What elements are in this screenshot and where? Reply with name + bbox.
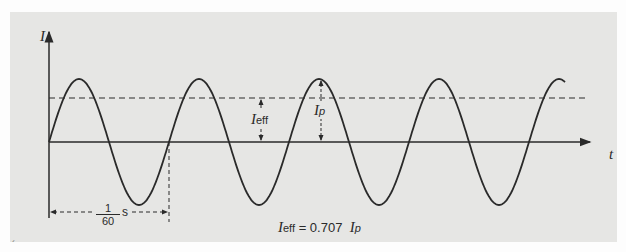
rms-equation: Ieff = 0.707 Ip [278,219,361,236]
peak-label: Ip [314,101,325,119]
period-fraction: 1 60 [96,202,120,227]
x-axis-label: t [609,146,613,163]
y-axis-label: I [40,28,45,45]
sine-wave-diagram [0,0,626,252]
rms-label: Ieff [251,110,268,128]
period-unit: s [122,205,130,219]
corner-mark: ´ [12,240,15,251]
